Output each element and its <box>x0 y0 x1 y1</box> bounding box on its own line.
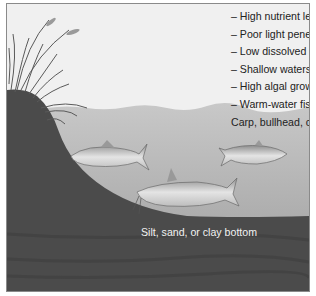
characteristic-item: – High algal growth <box>231 78 310 96</box>
bottom-label: Silt, sand, or clay bottom <box>141 226 257 238</box>
characteristic-item: – Shallow waters <box>231 61 310 79</box>
characteristic-item: Carp, bullhead, catfish <box>231 114 310 132</box>
characteristics-list: – High nutrient levels – Poor light pene… <box>231 8 310 131</box>
characteristic-item: – Warm-water fish: <box>231 96 310 114</box>
characteristic-item: – High nutrient levels <box>231 8 310 26</box>
characteristic-item: – Poor light penetration <box>231 26 310 44</box>
diagram-frame: – High nutrient levels – Poor light pene… <box>6 3 310 292</box>
characteristic-item: – Low dissolved oxygen <box>231 43 310 61</box>
